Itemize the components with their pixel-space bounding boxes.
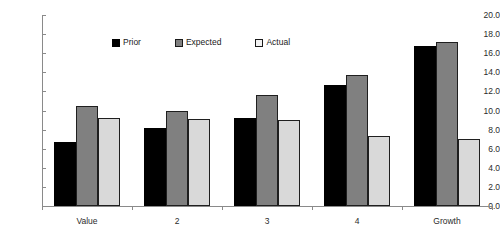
x-axis-label-4: 4 <box>312 216 402 226</box>
x-axis-label-growth: Growth <box>402 216 492 226</box>
bar-actual-growth <box>458 139 480 206</box>
bar-prior-4 <box>324 85 346 206</box>
bar-prior-3 <box>234 118 256 206</box>
x-axis-tick <box>312 206 313 210</box>
bar-expected-growth <box>436 42 458 206</box>
bar-actual-value <box>98 118 120 206</box>
x-axis-tick <box>402 206 403 210</box>
x-axis-label-3: 3 <box>222 216 312 226</box>
bar-actual-4 <box>368 136 390 206</box>
bar-prior-2 <box>144 128 166 206</box>
plot-area <box>42 15 492 206</box>
bar-expected-value <box>76 106 98 206</box>
x-axis-tick <box>222 206 223 210</box>
bar-expected-3 <box>256 95 278 206</box>
x-axis-tick <box>492 206 493 210</box>
bar-expected-2 <box>166 111 188 206</box>
x-axis-line <box>42 206 492 207</box>
bar-actual-2 <box>188 119 210 206</box>
bar-prior-value <box>54 142 76 206</box>
bar-prior-growth <box>414 46 436 206</box>
bar-chart: Prior Expected Actual 0.02.04.06.08.010.… <box>0 0 500 239</box>
bar-actual-3 <box>278 120 300 206</box>
x-axis-label-value: Value <box>42 216 132 226</box>
x-axis-label-2: 2 <box>132 216 222 226</box>
bar-expected-4 <box>346 75 368 206</box>
x-axis-tick <box>42 206 43 210</box>
x-axis-tick <box>132 206 133 210</box>
